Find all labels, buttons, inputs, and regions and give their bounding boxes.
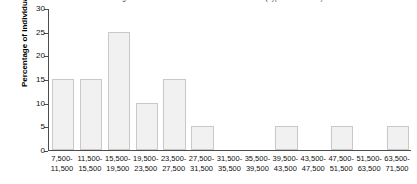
x-tick-label-lower: 47,500- (327, 154, 355, 164)
x-tick-label-upper: 51,500 (327, 164, 355, 174)
chart-title: Percentage distribution of annual income… (0, 0, 417, 2)
x-tick-label-upper: 27,500 (160, 164, 188, 174)
x-tick-label: 39,500-43,500 (271, 154, 299, 174)
x-tick-label-lower: 31,500- (216, 154, 244, 164)
x-tick-label: 19,500-23,500 (132, 154, 160, 174)
y-tick-label: 15 (36, 76, 45, 84)
x-tick-label: 47,500-51,500 (327, 154, 355, 174)
x-axis-tick-labels: 7,500-11,50011,500-15,50015,500-19,50019… (48, 154, 411, 184)
x-tick-label-upper: 23,500 (132, 164, 160, 174)
plot-area: 051015202530 (48, 9, 411, 151)
histogram-chart: Percentage distribution of annual income… (0, 0, 417, 184)
x-tick-label-upper: 31,500 (188, 164, 216, 174)
x-tick-label-upper: 71,500 (383, 164, 411, 174)
x-tick-label-upper: 43,500 (271, 164, 299, 174)
bar (331, 126, 353, 150)
x-tick-label-lower: 19,500- (132, 154, 160, 164)
x-tick-label: 7,500-11,500 (48, 154, 76, 174)
x-tick-label: 43,500-47,500 (299, 154, 327, 174)
x-tick-label: 51,500-63,500 (355, 154, 383, 174)
x-tick-label-lower: 43,500- (299, 154, 327, 164)
y-tick-label: 5 (41, 123, 45, 131)
y-tick-label: 20 (36, 52, 45, 60)
x-tick-label: 23,500-27,500 (160, 154, 188, 174)
x-tick-label: 35,500-39,500 (243, 154, 271, 174)
x-tick-label-upper: 47,500 (299, 164, 327, 174)
bar (136, 103, 158, 150)
y-tick-label: 10 (36, 100, 45, 108)
bar (191, 126, 213, 150)
x-tick-label-lower: 35,500- (243, 154, 271, 164)
bar (52, 79, 74, 150)
x-tick-label-lower: 39,500- (271, 154, 299, 164)
bar (387, 126, 409, 150)
x-tick-label: 31,500-35,500 (216, 154, 244, 174)
x-tick-label-lower: 11,500- (76, 154, 104, 164)
bar-series (49, 9, 411, 150)
x-tick-label-lower: 15,500- (104, 154, 132, 164)
x-tick-label-lower: 7,500- (48, 154, 76, 164)
bar (108, 32, 130, 150)
y-tick-label: 0 (41, 147, 45, 155)
y-tick-label: 25 (36, 29, 45, 37)
x-tick-label-lower: 27,500- (188, 154, 216, 164)
x-tick-label-upper: 19,500 (104, 164, 132, 174)
x-tick-label-upper: 15,500 (76, 164, 104, 174)
x-axis-line (48, 150, 411, 151)
x-tick-label: 27,500-31,500 (188, 154, 216, 174)
bar (275, 126, 297, 150)
x-tick-label-lower: 51,500- (355, 154, 383, 164)
x-tick-label-upper: 11,500 (48, 164, 76, 174)
y-tick-label: 30 (36, 5, 45, 13)
x-tick-label-upper: 63,500 (355, 164, 383, 174)
x-tick-label: 11,500-15,500 (76, 154, 104, 174)
x-tick-label: 15,500-19,500 (104, 154, 132, 174)
y-axis-label: Percentage of individuals (20, 0, 29, 109)
bar (163, 79, 185, 150)
x-tick-label-lower: 63,500- (383, 154, 411, 164)
x-tick-label-lower: 23,500- (160, 154, 188, 164)
x-tick-label: 63,500-71,500 (383, 154, 411, 174)
x-tick-label-upper: 39,500 (243, 164, 271, 174)
x-tick-label-upper: 35,500 (216, 164, 244, 174)
bar (80, 79, 102, 150)
chart-title-clipped: Percentage distribution of annual income… (0, 0, 417, 2)
